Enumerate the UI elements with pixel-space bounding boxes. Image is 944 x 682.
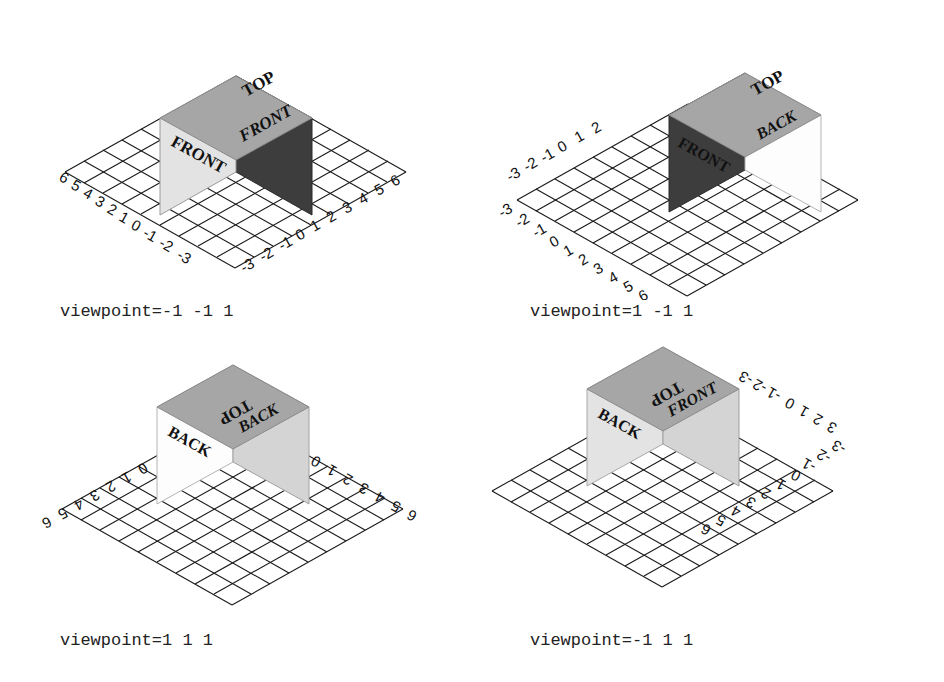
tick-label: 1 (324, 461, 340, 480)
tick-label: 4 (355, 189, 371, 208)
tick-label: 6 (635, 286, 651, 300)
tick-label: 2 (103, 477, 119, 496)
lower-axis: -3 -2 -1 0 1 2 3 4 5 6 (495, 199, 651, 300)
tick-label: 4 (605, 268, 621, 287)
tick-label: 2 (810, 410, 826, 429)
tick-label: 3 (339, 198, 355, 217)
panel-bottom-right-stage: TOP BACK FRONT -3 -2 -1 0 1 2 3 -3 -2 (472, 341, 944, 641)
tick-label: 5 (713, 511, 729, 530)
panel-bottom-right-plot: TOP BACK FRONT -3 -2 -1 0 1 2 3 -3 -2 (472, 341, 944, 641)
panel-top-left-plot: TOP FRONT FRONT 6 5 4 3 2 1 0 -1 -2 -3 (0, 0, 472, 300)
upper-axis: -3 -2 -1 0 1 2 (503, 118, 604, 185)
panel-bottom-left-stage: TOP BACK BACK 6 5 4 3 2 1 0 0 1 2 (0, 341, 472, 641)
panel-top-right-plot: TOP FRONT BACK -3 -2 -1 0 1 2 -3 -2 -1 (472, 0, 944, 300)
tick-label: 0 (308, 452, 324, 471)
panel-bottom-left: TOP BACK BACK 6 5 4 3 2 1 0 0 1 2 (0, 341, 472, 682)
tick-label: 0 (788, 466, 804, 485)
tick-label: 0 (292, 225, 308, 244)
tick-label: 5 (55, 504, 71, 523)
panel-top-left-stage: TOP FRONT FRONT 6 5 4 3 2 1 0 -1 -2 -3 (0, 0, 472, 300)
tick-label: -2 (157, 234, 177, 255)
tick-label: 0 (782, 394, 798, 413)
tick-label: 3 (590, 259, 606, 278)
panel-top-right-stage: TOP FRONT BACK -3 -2 -1 0 1 2 -3 -2 -1 (472, 0, 944, 300)
tick-label: 1 (307, 216, 323, 235)
tick-label: 5 (371, 180, 387, 199)
panel-caption: viewpoint=-1 -1 1 (60, 302, 233, 321)
tick-label: 0 (554, 137, 570, 156)
tick-label: 2 (323, 207, 339, 226)
tick-label: 4 (71, 495, 87, 514)
tick-label: 1 (571, 127, 587, 146)
tick-label: 6 (404, 506, 420, 525)
upper-axis: -3 -2 -1 0 1 2 3 (736, 368, 840, 437)
tick-label: 0 (135, 459, 151, 478)
tick-label: 5 (69, 176, 85, 195)
panel-bottom-left-plot: TOP BACK BACK 6 5 4 3 2 1 0 0 1 2 (0, 341, 472, 641)
tick-label: -3 (175, 246, 195, 267)
tick-label: 1 (773, 475, 789, 494)
panel-top-right: TOP FRONT BACK -3 -2 -1 0 1 2 -3 -2 -1 (472, 0, 944, 341)
panel-caption: viewpoint=1 -1 1 (530, 302, 693, 321)
tick-label: 1 (796, 402, 812, 421)
tick-label: 6 (387, 171, 403, 190)
tick-label: 3 (93, 192, 109, 211)
tick-label: 4 (728, 502, 744, 521)
tick-label: 0 (129, 216, 145, 235)
tick-label: 5 (620, 277, 636, 296)
panel-caption: viewpoint=1 1 1 (60, 631, 213, 650)
panel-top-left: TOP FRONT FRONT 6 5 4 3 2 1 0 -1 -2 -3 (0, 0, 472, 341)
viewpoint-figure: TOP FRONT FRONT 6 5 4 3 2 1 0 -1 -2 -3 (0, 0, 944, 682)
right-axis: 0 1 2 3 4 5 6 (308, 452, 420, 525)
tick-label: 2 (575, 250, 591, 269)
tick-label: -1 (537, 144, 557, 165)
tick-label: -1 (141, 224, 161, 245)
left-axis: 6 5 4 3 2 1 0 (39, 459, 151, 532)
tick-label: 2 (105, 200, 121, 219)
tick-label: 2 (588, 118, 604, 137)
tick-label: 4 (372, 488, 388, 507)
tick-label: -3 (503, 163, 523, 184)
tick-label: 1 (560, 241, 576, 260)
tick-label: 0 (546, 232, 562, 251)
tick-label: 6 (57, 168, 73, 187)
tick-label: 6 (39, 513, 55, 532)
tick-label: 3 (356, 479, 372, 498)
panel-bottom-right: TOP BACK FRONT -3 -2 -1 0 1 2 3 -3 -2 (472, 341, 944, 682)
tick-label: 2 (758, 484, 774, 503)
tick-label: 4 (81, 184, 97, 203)
tick-label: -2 (520, 153, 540, 174)
tick-label: 3 (743, 493, 759, 512)
tick-label: 5 (388, 497, 404, 516)
tick-label: 1 (117, 208, 133, 227)
panel-caption: viewpoint=-1 1 1 (530, 631, 693, 650)
tick-label: 3 (824, 418, 840, 437)
